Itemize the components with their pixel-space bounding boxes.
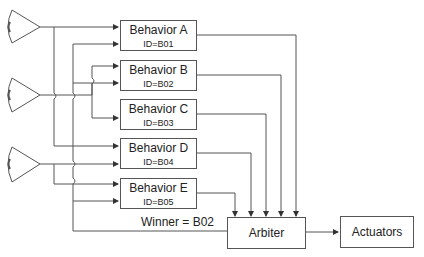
- behavior-b-box: Behavior B ID=B02: [120, 60, 197, 91]
- winner-label: Winner = B02: [141, 215, 214, 229]
- behavior-a-box: Behavior A ID=B01: [120, 20, 197, 51]
- arbiter-box: Arbiter: [227, 217, 306, 249]
- behavior-d-id: ID=B04: [121, 157, 196, 168]
- behavior-d-box: Behavior D ID=B04: [120, 138, 197, 169]
- arbiter-label: Arbiter: [249, 226, 284, 240]
- actuators-label: Actuators: [352, 225, 403, 239]
- behavior-a-name: Behavior A: [121, 23, 196, 37]
- eye-icon: [8, 10, 40, 43]
- behavior-e-name: Behavior E: [121, 181, 196, 195]
- behavior-c-name: Behavior C: [121, 102, 196, 116]
- behavior-c-id: ID=B03: [121, 118, 196, 129]
- behavior-a-id: ID=B01: [121, 39, 196, 50]
- behavior-c-box: Behavior C ID=B03: [120, 99, 197, 130]
- actuators-box: Actuators: [340, 216, 414, 248]
- behavior-e-box: Behavior E ID=B05: [120, 178, 197, 209]
- behavior-b-name: Behavior B: [121, 63, 196, 77]
- behavior-d-name: Behavior D: [121, 141, 196, 155]
- eye-icon: [8, 147, 40, 182]
- behavior-e-id: ID=B05: [121, 197, 196, 208]
- eye-icon: [8, 78, 40, 112]
- behavior-b-id: ID=B02: [121, 79, 196, 90]
